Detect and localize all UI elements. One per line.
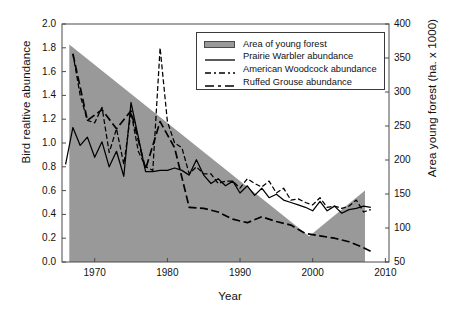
legend-solid-line-icon [203,51,237,62]
y-axis-left-tick-label: 1.2 [28,113,56,124]
y-axis-left-tick-label: 0.6 [28,185,56,196]
y-axis-left-tick-label: 0.2 [28,232,56,243]
legend-dashed-line-icon [203,64,237,75]
legend-label: Ruffed Grouse abundance [243,77,352,88]
legend-item-prairie-warbler: Prairie Warbler abundance [203,51,378,64]
y-axis-left-tick-label: 1.8 [28,42,56,53]
y-axis-left-tick-label: 1.4 [28,89,56,100]
y-axis-right-title: Area young forest (ha. x 1000) [426,18,438,178]
legend-label: Area of young forest [243,39,327,50]
y-axis-right-tick-label: 250 [394,120,426,131]
y-axis-left-tick-label: 0.4 [28,208,56,219]
y-axis-left-tick-label: 1.0 [28,137,56,148]
y-axis-left-tick-label: 2.0 [28,18,56,29]
x-axis-tick-label: 2000 [293,267,333,278]
y-axis-right-tick-label: 300 [394,86,426,97]
x-axis-tick-label: 1990 [220,267,260,278]
x-axis-title: Year [150,290,310,302]
x-axis-tick-label: 1970 [75,267,115,278]
chart-figure: Bird realtive abundance Area young fores… [0,0,456,314]
chart-legend: Area of young forest Prairie Warbler abu… [196,32,385,90]
legend-item-area: Area of young forest [203,38,378,51]
y-axis-right-tick-label: 400 [394,18,426,29]
y-axis-right-tick-label: 150 [394,188,426,199]
y-axis-right-tick-label: 100 [394,222,426,233]
y-axis-left-tick-label: 0.8 [28,161,56,172]
legend-item-ruffed-grouse: Ruffed Grouse abundance [203,76,378,89]
y-axis-left-tick-label: 0.0 [28,256,56,267]
y-axis-right-tick-label: 200 [394,154,426,165]
y-axis-right-tick-label: 350 [394,52,426,63]
legend-label: American Woodcock abundance [243,64,377,75]
legend-area-swatch-icon [203,39,237,50]
x-axis-tick-label: 2010 [365,267,405,278]
x-axis-tick-label: 1980 [147,267,187,278]
legend-long-dash-line-icon [203,77,237,88]
y-axis-left-tick-label: 1.6 [28,66,56,77]
legend-label: Prairie Warbler abundance [243,51,353,62]
legend-item-american-woodcock: American Woodcock abundance [203,63,378,76]
y-axis-right-tick-label: 50 [394,256,426,267]
